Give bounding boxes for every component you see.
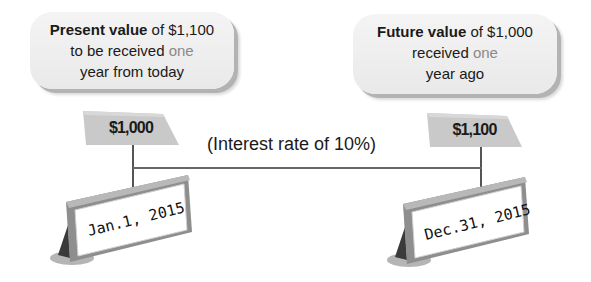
callout-line-3: year from today [30, 61, 234, 82]
callout-emphasis: one [473, 44, 498, 61]
present-amount-flag: $1,000 [83, 111, 179, 145]
callout-line-1: Present value of $1,100 [30, 19, 234, 40]
callout-text: to be received [70, 42, 168, 59]
interest-rate-label: (Interest rate of 10%) [207, 134, 376, 155]
flag-amount: $1,100 [427, 121, 522, 139]
future-value-callout: Future value of $1,000 received one year… [353, 14, 557, 94]
timeline-line [133, 167, 482, 169]
callout-line-2: received one [353, 42, 557, 63]
end-date-sign: Dec.31, 2015 [375, 172, 535, 272]
callout-text: received [412, 44, 473, 61]
callout-title: Present value [50, 21, 148, 38]
start-date-sign: Jan.1, 2015 [38, 170, 198, 270]
callout-line-2: to be received one [30, 40, 234, 61]
present-value-callout: Present value of $1,100 to be received o… [30, 12, 234, 89]
flag-amount: $1,000 [83, 119, 179, 137]
callout-title: Future value [377, 23, 466, 40]
callout-emphasis: one [169, 42, 194, 59]
callout-line-3: year ago [353, 63, 557, 84]
callout-line-1: Future value of $1,000 [353, 21, 557, 42]
future-amount-flag: $1,100 [427, 113, 522, 147]
callout-text: of $1,000 [466, 23, 533, 40]
callout-text: of $1,100 [147, 21, 214, 38]
